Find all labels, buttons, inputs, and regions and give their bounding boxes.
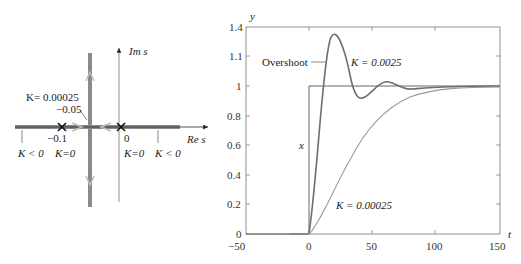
x-axis-label: t: [508, 228, 512, 240]
pole-left-label: −0.1: [47, 132, 67, 144]
step-input-annotation: x: [298, 139, 304, 151]
k-breakaway-label: K= 0.00025: [26, 91, 79, 103]
x-tick-label: 50: [366, 240, 378, 252]
k-neg-left-label: K < 0: [17, 147, 44, 159]
step-response-chart: −50 0 50 100 150 0 0.2 0.4 0.6 0.8 1 1.1…: [227, 10, 512, 252]
k-0.0025-annotation: K = 0.0025: [350, 56, 402, 68]
y-tick-label: 1: [236, 80, 242, 92]
x-tick-label: 150: [489, 240, 506, 252]
x-tick-label: 100: [426, 240, 443, 252]
y-axis-label: y: [249, 10, 255, 22]
re-axis-label: Re s: [186, 133, 206, 145]
y-tick-label: 0: [236, 228, 242, 240]
breakaway-point-label: −0.05: [56, 103, 82, 115]
pole-origin-label: 0: [124, 132, 130, 144]
overshoot-annotation: Overshoot: [262, 56, 308, 68]
figure-canvas: Im s Re s K= 0.00025 −0.05 −0.1 0 K < 0 …: [0, 0, 521, 264]
y-tick-label: 0.4: [227, 169, 241, 181]
im-axis-label: Im s: [128, 45, 148, 57]
k-neg-right-label: K < 0: [154, 147, 181, 159]
root-locus-plot: Im s Re s K= 0.00025 −0.05 −0.1 0 K < 0 …: [15, 45, 208, 207]
step-input-line: [246, 86, 500, 234]
y-tick-label: 0.6: [227, 139, 241, 151]
y-tick-marks: [246, 56, 500, 204]
y-tick-label: 0.2: [227, 198, 241, 210]
y-tick-label: 0.8: [227, 110, 241, 122]
y-tick-label: 1.1: [229, 50, 243, 62]
k-0.00025-annotation: K = 0.00025: [335, 199, 393, 211]
k-zero-left-label: K=0: [54, 147, 76, 159]
y-tick-label: 1.4: [229, 21, 243, 33]
x-tick-label: 0: [306, 240, 312, 252]
k-zero-right-label: K=0: [123, 147, 145, 159]
x-tick-label: −50: [228, 240, 246, 252]
response-k-0.00025: [309, 87, 500, 234]
